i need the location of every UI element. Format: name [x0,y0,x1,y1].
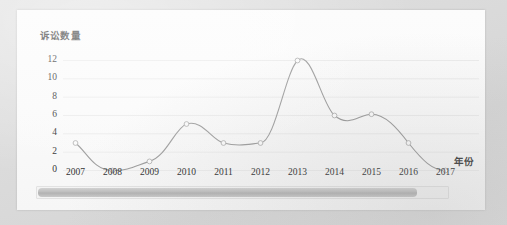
y-tick-label-12: 12 [41,54,57,64]
data-point-2012 [258,141,263,146]
data-point-2016 [406,141,411,146]
x-tick-label-2011: 2011 [207,167,241,177]
data-point-2010 [184,122,189,127]
x-tick-label-2010: 2010 [170,167,204,177]
x-tick-label-2017: 2017 [429,167,463,177]
chart-svg [17,10,485,180]
data-point-2013 [295,58,300,63]
data-point-2011 [221,141,226,146]
x-tick-label-2014: 2014 [318,167,352,177]
x-tick-label-2007: 2007 [59,167,93,177]
y-tick-label-2: 2 [41,146,57,156]
data-point-2014 [332,113,337,118]
y-tick-label-6: 6 [41,109,57,119]
y-tick-label-0: 0 [41,164,57,174]
chart-panel: 诉讼数量 年份 12 10 8 6 4 2 0 2007 2008 2009 2… [17,10,485,210]
data-point-2009 [147,159,152,164]
x-tick-label-2012: 2012 [244,167,278,177]
data-line [76,59,446,171]
y-tick-label-8: 8 [41,91,57,101]
x-tick-label-2016: 2016 [392,167,426,177]
y-tick-label-10: 10 [41,72,57,82]
data-point-2015 [369,112,374,117]
x-tick-label-2009: 2009 [133,167,167,177]
screenshot-root: 诉讼数量 年份 12 10 8 6 4 2 0 2007 2008 2009 2… [0,0,507,225]
scrollbar-thumb[interactable] [38,188,417,197]
x-tick-label-2008: 2008 [96,167,130,177]
y-axis-title: 诉讼数量 [40,28,81,42]
x-tick-label-2015: 2015 [355,167,389,177]
x-tick-label-2013: 2013 [281,167,315,177]
data-point-2007 [73,141,78,146]
gridlines [63,61,479,171]
line-chart: 诉讼数量 年份 12 10 8 6 4 2 0 2007 2008 2009 2… [17,10,485,180]
horizontal-scrollbar[interactable] [36,186,449,199]
x-axis-title: 年份 [454,154,474,168]
y-tick-label-4: 4 [41,127,57,137]
